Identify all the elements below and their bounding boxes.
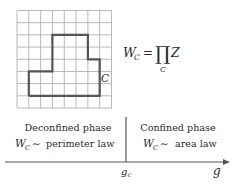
confined-phase-label: Confined phase W C ∼ area law [140,122,217,152]
formula-equals: = [143,46,153,60]
confined-phase-title: Confined phase [140,122,216,133]
formula-operand: Z [170,45,180,60]
critical-coupling-subscript: c [128,171,132,179]
product-operator: ∏ [155,42,170,64]
phase-diagram-figure: C W C = ∏ C Z Deconfined phase W C ∼ per… [0,0,238,186]
contour-label: C [101,72,109,84]
deconfined-phase-title: Deconfined phase [25,122,112,133]
diagram-canvas: C W C = ∏ C Z Deconfined phase W C ∼ per… [0,0,238,186]
critical-coupling-label: g [121,166,127,177]
product-subscript: C [160,65,166,74]
deconfined-law-subscript: C [25,144,30,152]
wilson-loop-formula: W C = ∏ C Z [123,42,180,74]
deconfined-law-text: perimeter law [46,138,115,149]
deconfined-law-relation: ∼ [32,138,40,149]
coupling-axis-label: g [213,164,221,178]
confined-law-relation: ∼ [160,138,168,149]
confined-law-subscript: C [153,144,158,152]
deconfined-phase-label: Deconfined phase W C ∼ perimeter law [15,122,115,152]
formula-lhs-subscript: C [134,53,140,62]
confined-law-text: area law [175,138,218,149]
